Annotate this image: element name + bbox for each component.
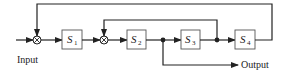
svg-text:S: S	[185, 33, 191, 45]
block-s1: S 1	[62, 30, 82, 49]
svg-text:2: 2	[138, 39, 142, 47]
output-label: Output	[241, 59, 269, 70]
block-s3: S 3	[181, 30, 200, 49]
svg-text:1: 1	[74, 39, 78, 47]
svg-text:4: 4	[247, 39, 251, 47]
summing-junction-2	[100, 36, 108, 44]
svg-text:S: S	[131, 33, 137, 45]
block-s4: S 4	[235, 30, 255, 49]
summing-junction-1	[33, 36, 41, 44]
input-label: Input	[17, 54, 38, 65]
svg-text:S: S	[240, 33, 246, 45]
block-diagram: S 1 S 2 S 3 S 4 Input	[0, 0, 293, 78]
svg-text:S: S	[67, 33, 73, 45]
block-s2: S 2	[127, 30, 146, 49]
svg-text:3: 3	[192, 39, 196, 47]
output-branch-path	[163, 40, 238, 65]
